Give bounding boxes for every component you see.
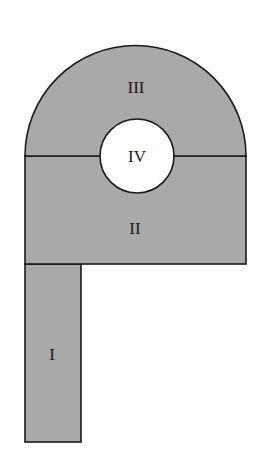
composite-shape-diagram: III IV II I: [0, 0, 265, 462]
label-region-iv: IV: [128, 147, 147, 166]
label-region-ii: II: [129, 219, 141, 238]
label-region-iii: III: [128, 78, 145, 97]
label-region-i: I: [49, 345, 55, 364]
